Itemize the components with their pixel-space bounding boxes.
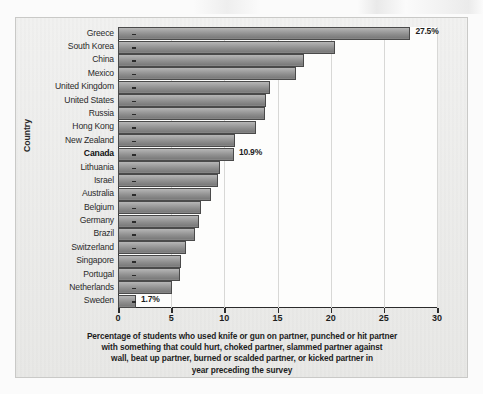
y-axis-tick	[132, 208, 136, 210]
bar-row	[118, 121, 437, 134]
y-axis-label-russia: Russia	[20, 108, 114, 118]
bar	[118, 81, 270, 94]
y-axis-label-canada: Canada	[20, 148, 114, 158]
x-axis-caption: Percentage of students who used knife or…	[62, 331, 422, 376]
y-axis-label-switzerland: Switzerland	[20, 242, 114, 252]
bar-row	[118, 94, 437, 107]
bar	[118, 201, 201, 214]
x-axis-tick-label: 25	[379, 313, 389, 323]
y-axis-label-south-korea: South Korea	[20, 41, 114, 51]
bar-row	[118, 268, 437, 281]
y-axis-label-germany: Germany	[20, 215, 114, 225]
y-axis-label-belgium: Belgium	[20, 202, 114, 212]
bar-row	[118, 281, 437, 294]
y-axis-tick	[132, 101, 136, 103]
bar-value-label: 1.7%	[141, 294, 160, 304]
y-axis-label-australia: Australia	[20, 188, 114, 198]
bar	[118, 268, 180, 281]
x-axis-tick-labels: 051015202530	[118, 313, 438, 327]
y-axis-label-israel: Israel	[20, 175, 114, 185]
x-axis-tick-label: 0	[115, 313, 120, 323]
y-axis-label-mexico: Mexico	[20, 68, 114, 78]
caption-line: with something that could hurt, choked p…	[62, 342, 422, 353]
y-axis-label-brazil: Brazil	[20, 228, 114, 238]
bar	[118, 215, 199, 228]
bar-row	[118, 241, 437, 254]
y-axis-tick	[132, 154, 136, 156]
bar	[118, 27, 410, 40]
bar	[118, 241, 186, 254]
x-axis-tick-label: 5	[169, 313, 174, 323]
y-axis-tick	[132, 288, 136, 290]
y-axis-label-singapore: Singapore	[20, 255, 114, 265]
y-axis-tick	[132, 168, 136, 170]
y-axis-tick	[132, 60, 136, 62]
bar-row	[118, 54, 437, 67]
horizontal-bar-chart: 27.5%10.9%1.7% GreeceSouth KoreaChinaMex…	[0, 0, 483, 394]
bar	[118, 228, 195, 241]
y-axis-tick	[132, 47, 136, 49]
caption-line: year preceding the survey	[62, 365, 422, 376]
y-axis-tick	[132, 87, 136, 89]
bar	[118, 121, 256, 134]
bar-row	[118, 215, 437, 228]
bar	[118, 67, 296, 80]
bar-row	[118, 134, 437, 147]
bar-row	[118, 161, 437, 174]
y-axis-tick	[132, 127, 136, 129]
y-axis-label-hong-kong: Hong Kong	[20, 121, 114, 131]
y-axis-label-new-zealand: New Zealand	[20, 135, 114, 145]
bar-row	[118, 41, 437, 54]
caption-line: wall, beat up partner, burned or scalded…	[62, 353, 422, 364]
bar-value-label: 27.5%	[415, 26, 438, 36]
x-axis-tick-label: 10	[219, 313, 229, 323]
y-axis-tick	[132, 221, 136, 223]
bar-row	[118, 188, 437, 201]
bar-series: 27.5%10.9%1.7%	[118, 27, 437, 308]
y-axis-tick	[132, 181, 136, 183]
y-axis-label-lithuania: Lithuania	[20, 162, 114, 172]
y-axis-category-labels: GreeceSouth KoreaChinaMexicoUnited Kingd…	[18, 27, 114, 308]
y-axis-label-portugal: Portugal	[20, 269, 114, 279]
y-axis-tick	[132, 301, 136, 303]
bar-row	[118, 255, 437, 268]
x-axis-tick-label: 20	[326, 313, 336, 323]
bar-row: 10.9%	[118, 148, 437, 161]
y-axis-title: Country	[22, 119, 32, 152]
bar	[118, 255, 181, 268]
bar	[118, 54, 304, 67]
y-axis-label-united-states: United States	[20, 95, 114, 105]
y-axis-label-china: China	[20, 54, 114, 64]
y-axis-label-sweden: Sweden	[20, 295, 114, 305]
bar-value-label: 10.9%	[239, 147, 262, 157]
y-axis-tick	[132, 34, 136, 36]
x-axis-tick-label: 30	[432, 313, 442, 323]
bar-row	[118, 67, 437, 80]
y-axis-label-netherlands: Netherlands	[20, 282, 114, 292]
caption-line: Percentage of students who used knife or…	[62, 331, 422, 342]
y-axis-tick	[132, 114, 136, 116]
x-axis-tick-label: 15	[272, 313, 282, 323]
bar	[118, 94, 266, 107]
y-axis-tick	[132, 194, 136, 196]
gridline	[437, 27, 438, 308]
bar-row: 27.5%	[118, 27, 437, 40]
bar	[118, 107, 265, 120]
y-axis-tick	[132, 261, 136, 263]
bar	[118, 281, 172, 294]
y-axis-tick	[132, 141, 136, 143]
bar-row	[118, 107, 437, 120]
bar	[118, 41, 335, 54]
y-axis-tick	[132, 248, 136, 250]
y-axis-label-greece: Greece	[20, 28, 114, 38]
bar-row	[118, 174, 437, 187]
y-axis-label-united-kingdom: United Kingdom	[20, 81, 114, 91]
bar-row	[118, 201, 437, 214]
bar-row	[118, 81, 437, 94]
y-axis-tick	[132, 74, 136, 76]
bar-row	[118, 228, 437, 241]
y-axis-tick	[132, 234, 136, 236]
bar-row: 1.7%	[118, 295, 437, 308]
y-axis-tick	[132, 275, 136, 277]
